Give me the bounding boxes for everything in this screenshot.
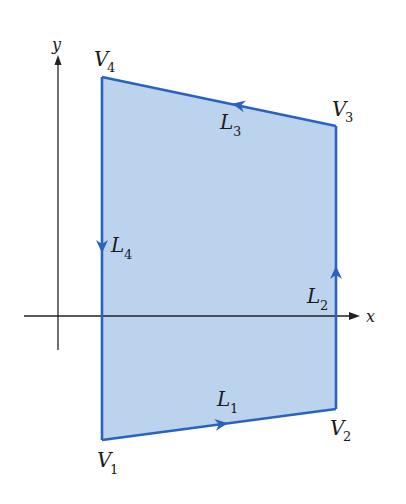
x-axis-label: x [366, 307, 375, 326]
svg-text:4: 4 [107, 60, 115, 75]
shaded-region [102, 77, 336, 440]
svg-text:L: L [306, 284, 320, 308]
svg-text:1: 1 [110, 462, 118, 477]
vertex-label-v1: V 1 [97, 448, 118, 477]
y-axis [55, 55, 62, 350]
vertex-label-v2: V 2 [330, 416, 351, 444]
svg-text:3: 3 [233, 124, 241, 139]
svg-text:2: 2 [320, 298, 328, 313]
polygon-diagram: y x V 4 V 3 V 2 V 1 L 3 L 4 L 2 L 1 [0, 0, 406, 504]
svg-text:4: 4 [124, 247, 132, 262]
vertex-label-v3: V 3 [332, 97, 353, 125]
svg-text:L: L [216, 387, 230, 411]
y-axis-arrow-icon [55, 55, 62, 65]
x-axis-arrow-icon [349, 312, 360, 320]
svg-text:2: 2 [343, 429, 351, 444]
y-axis-label: y [51, 35, 62, 54]
svg-text:L: L [110, 233, 124, 257]
svg-text:1: 1 [230, 401, 238, 416]
svg-text:L: L [219, 110, 233, 134]
svg-text:3: 3 [345, 110, 353, 125]
vertex-label-v4: V 4 [94, 47, 115, 75]
